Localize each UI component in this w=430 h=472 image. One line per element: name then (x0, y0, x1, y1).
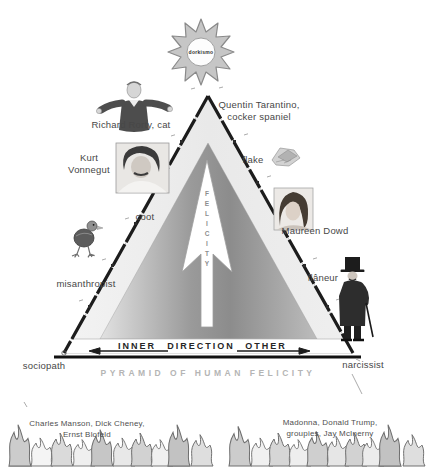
flames-left-caption: Charles Manson, Dick Cheney, Ernst Blofe… (29, 418, 144, 440)
coot-illustration (72, 221, 103, 257)
label-maureen-dowd: Maureen Dowd (282, 225, 349, 237)
dowd-photo (274, 188, 313, 230)
label-quentin-tarantino: Quentin Tarantino, cocker spaniel (218, 99, 299, 124)
label-flaneur: flâneur (308, 272, 338, 284)
flames-right-caption: Madonna, Donald Trump, groupies, Jay McI… (283, 417, 378, 439)
scene-svg (0, 0, 430, 472)
flake-illustration (272, 148, 300, 166)
pyramid-of-human-felicity-diagram: dorkismo Quentin Tarantino, cocker spani… (0, 0, 430, 472)
label-kurt-vonnegut: Kurt Vonnegut (68, 152, 110, 177)
label-flake: flake (242, 154, 263, 166)
label-richard-rorty: Richard Rorty, cat (92, 119, 171, 131)
band-other-label: OTHER (245, 341, 287, 351)
sun-label: dorkismo (189, 49, 214, 55)
band-direction-label: DIRECTION (167, 341, 235, 351)
label-coot: coot (136, 211, 155, 223)
felicity-axis-word: FELICITY (204, 190, 211, 270)
label-sociopath: sociopath (23, 360, 65, 372)
vonnegut-photo (116, 143, 169, 193)
label-narcissist: narcissist (342, 359, 384, 371)
label-misanthropist: misanthropist (56, 278, 115, 290)
flaneur-illustration (339, 257, 373, 340)
band-inner-label: INNER (118, 341, 156, 351)
diagram-caption: PYRAMID OF HUMAN FELICITY (101, 368, 316, 378)
